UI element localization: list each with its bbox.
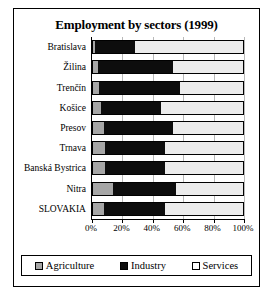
- x-tick-label: 100%: [233, 223, 254, 233]
- plot-area: [91, 37, 244, 220]
- bar-row: [92, 141, 244, 155]
- bar-segment-industry: [113, 183, 176, 195]
- bar-row: [92, 101, 244, 115]
- bar-row: [92, 182, 244, 196]
- bar-row: [92, 161, 244, 175]
- legend-entry: Agriculture: [35, 260, 94, 271]
- chart-legend: AgricultureIndustryServices: [21, 255, 252, 276]
- bar-segment-services: [176, 183, 244, 195]
- gridline: [244, 37, 245, 219]
- bar-segment-agriculture: [93, 183, 113, 195]
- bar-segment-industry: [95, 41, 136, 53]
- legend-label: Services: [203, 260, 239, 271]
- legend-swatch-icon: [192, 262, 200, 270]
- x-tick-label: 60%: [174, 223, 191, 233]
- bar-row: [92, 121, 244, 135]
- category-label: Žilina: [63, 62, 86, 72]
- bar-row: [92, 60, 244, 74]
- bar-segment-services: [161, 102, 244, 114]
- bar-row: [92, 81, 244, 95]
- chart-frame: Employment by sectors (1999) BratislavaŽ…: [13, 8, 260, 287]
- bar-segment-agriculture: [93, 102, 101, 114]
- bar-segment-services: [165, 142, 243, 154]
- category-label: Košice: [60, 103, 86, 113]
- category-label: Presov: [60, 123, 86, 133]
- bar-segment-industry: [98, 61, 173, 73]
- bar-segment-industry: [101, 102, 161, 114]
- legend-label: Agriculture: [46, 260, 94, 271]
- category-label: Trnava: [59, 143, 86, 153]
- legend-swatch-icon: [35, 262, 43, 270]
- plot-region: BratislavaŽilinaTrenčínKošicePresovTrnav…: [20, 37, 255, 242]
- x-tick-label: 20%: [113, 223, 130, 233]
- bar-segment-agriculture: [93, 122, 104, 134]
- bar-segment-services: [165, 162, 243, 174]
- category-label: Trenčín: [57, 83, 86, 93]
- category-label: Nitra: [66, 184, 86, 194]
- chart-title: Employment by sectors (1999): [14, 17, 259, 33]
- bar-segment-services: [135, 41, 243, 53]
- bar-segment-industry: [105, 162, 165, 174]
- bar-segment-industry: [104, 203, 166, 215]
- bar-segment-agriculture: [93, 203, 104, 215]
- bar-segment-services: [165, 203, 243, 215]
- bar-segment-industry: [104, 122, 173, 134]
- category-label: SLOVAKIA: [39, 204, 86, 214]
- category-label: Banská Bystrica: [24, 163, 86, 173]
- bar-segment-services: [173, 61, 244, 73]
- category-label: Bratislava: [47, 42, 86, 52]
- legend-entry: Services: [192, 260, 239, 271]
- bar-segment-services: [180, 82, 243, 94]
- bar-segment-industry: [99, 82, 180, 94]
- x-tick-label: 80%: [204, 223, 221, 233]
- legend-label: Industry: [131, 260, 166, 271]
- legend-swatch-icon: [120, 262, 128, 270]
- legend-entry: Industry: [120, 260, 166, 271]
- bar-row: [92, 40, 244, 54]
- category-axis-labels: BratislavaŽilinaTrenčínKošicePresovTrnav…: [20, 37, 90, 219]
- x-tick-label: 40%: [144, 223, 161, 233]
- bar-segment-services: [173, 122, 244, 134]
- bar-segment-agriculture: [93, 142, 105, 154]
- bar-segment-industry: [105, 142, 165, 154]
- x-axis-tick-labels: 0%20%40%60%80%100%: [91, 223, 243, 237]
- x-tick-label: 0%: [85, 223, 97, 233]
- bar-segment-agriculture: [93, 162, 105, 174]
- bar-row: [92, 202, 244, 216]
